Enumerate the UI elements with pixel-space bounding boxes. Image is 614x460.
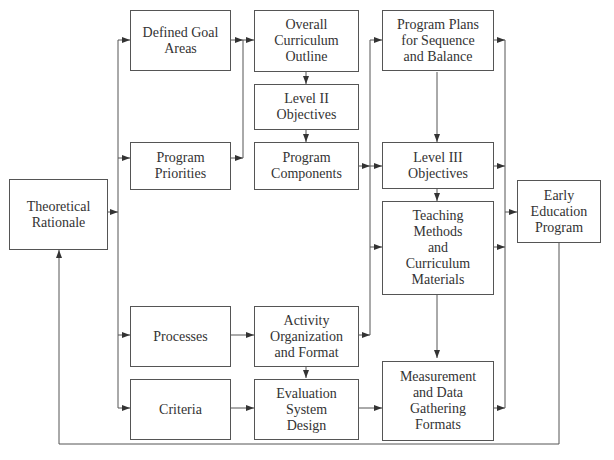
activity-organization-label: Activity Organization and Format [270, 313, 343, 361]
overall-curriculum-outline-box: Overall Curriculum Outline [254, 10, 359, 72]
level-ii-objectives-box: Level II Objectives [254, 84, 359, 130]
evaluation-system-design-label: Evaluation System Design [276, 386, 337, 434]
teaching-methods-label: Teaching Methods and Curriculum Material… [406, 208, 471, 288]
early-education-program-box: Early Education Program [517, 180, 601, 243]
defined-goal-areas-box: Defined Goal Areas [130, 10, 231, 71]
overall-curriculum-outline-label: Overall Curriculum Outline [274, 17, 339, 65]
flowchart-diagram: Theoretical Rationale Defined Goal Areas… [0, 0, 614, 460]
criteria-box: Criteria [130, 379, 231, 440]
early-education-program-label: Early Education Program [531, 188, 588, 236]
program-plans-box: Program Plans for Sequence and Balance [382, 10, 494, 71]
processes-box: Processes [130, 306, 231, 367]
theoretical-rationale-box: Theoretical Rationale [9, 179, 108, 250]
program-priorities-label: Program Priorities [155, 150, 206, 182]
program-components-label: Program Components [271, 150, 342, 182]
processes-label: Processes [153, 329, 207, 345]
level-iii-objectives-box: Level III Objectives [382, 142, 494, 189]
theoretical-rationale-label: Theoretical Rationale [27, 199, 91, 231]
program-components-box: Program Components [254, 142, 359, 190]
teaching-methods-box: Teaching Methods and Curriculum Material… [382, 201, 494, 295]
program-priorities-box: Program Priorities [130, 142, 231, 190]
defined-goal-areas-label: Defined Goal Areas [143, 25, 219, 57]
level-iii-objectives-label: Level III Objectives [408, 150, 468, 182]
evaluation-system-design-box: Evaluation System Design [254, 379, 359, 440]
criteria-label: Criteria [159, 402, 202, 418]
measurement-formats-label: Measurement and Data Gathering Formats [400, 369, 476, 433]
program-plans-label: Program Plans for Sequence and Balance [397, 17, 479, 65]
level-ii-objectives-label: Level II Objectives [277, 91, 337, 123]
activity-organization-box: Activity Organization and Format [254, 306, 359, 367]
measurement-formats-box: Measurement and Data Gathering Formats [382, 361, 494, 441]
